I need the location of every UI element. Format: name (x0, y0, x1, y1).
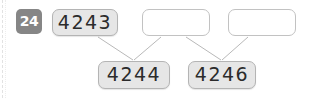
line-blank2-to-4246 (222, 37, 248, 60)
line-4243-to-4244 (98, 37, 133, 60)
line-blank1-to-4244 (134, 37, 161, 60)
box-4243: 4243 (52, 9, 118, 36)
box-4244: 4244 (98, 61, 170, 89)
worksheet-exercise-panel: 24 424342444246 (0, 0, 316, 98)
box-blank-2[interactable] (228, 9, 296, 36)
line-blank1-to-4246 (186, 37, 221, 60)
page-edge-dashed-rule (2, 0, 3, 98)
box-blank-1[interactable] (142, 9, 210, 36)
exercise-number-badge: 24 (16, 9, 42, 34)
page-edge-dotted-rule (5, 0, 6, 98)
box-4246: 4246 (188, 61, 256, 89)
